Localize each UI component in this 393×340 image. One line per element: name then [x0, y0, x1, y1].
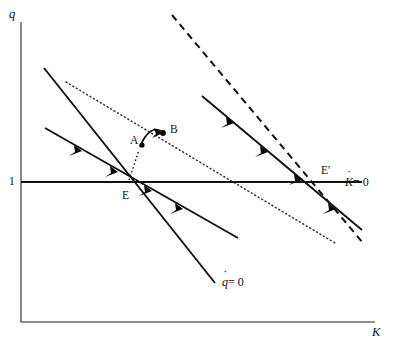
point-B-label: B [170, 124, 178, 136]
point-E-label: E [122, 190, 129, 202]
y-axis-tick-label-1: 1 [9, 176, 15, 188]
point-A-dot [139, 142, 144, 147]
point-B-dot [160, 130, 166, 136]
kdot-zero-label: K= 0 [345, 176, 369, 188]
phase-diagram-canvas [0, 0, 393, 340]
qdot-zero-label: q= 0 [222, 276, 244, 288]
kdot-equals-zero: = 0 [353, 175, 369, 189]
qdot-equals-zero: = 0 [228, 275, 244, 289]
phase-diagram-figure: q K 1 E E' A B K= 0 q= 0 [0, 0, 393, 340]
qdot-variable: q [222, 276, 228, 288]
x-axis-label: K [372, 326, 380, 339]
y-axis-label: q [9, 8, 15, 21]
kdot-variable: K [345, 176, 353, 188]
point-E-prime-label: E' [321, 165, 330, 177]
saddle-path-new [202, 96, 362, 230]
point-A-label: A [130, 135, 138, 147]
